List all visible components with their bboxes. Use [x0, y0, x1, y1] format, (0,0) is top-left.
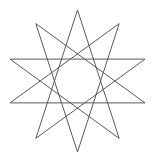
star-figure-canvas	[0, 0, 155, 159]
figure-background	[0, 0, 155, 159]
decagram-star-svg	[0, 0, 155, 159]
